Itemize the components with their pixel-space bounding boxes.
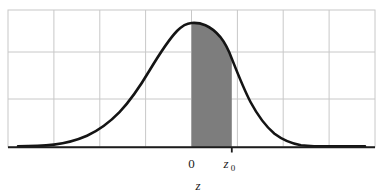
normal-distribution-figure: 0 z 0 z [0, 0, 382, 196]
x-tick-label-zero: 0 [188, 156, 195, 171]
x-axis-title: z [194, 178, 200, 193]
x-tick-label-z0-subscript: 0 [231, 163, 236, 173]
x-tick-label-z0-base: z [222, 156, 228, 171]
x-tick-label-z0: z 0 [222, 156, 235, 173]
chart-canvas: 0 z 0 z [0, 0, 382, 196]
